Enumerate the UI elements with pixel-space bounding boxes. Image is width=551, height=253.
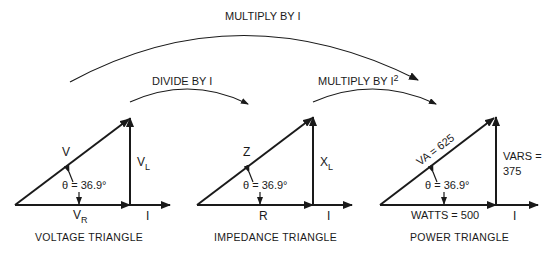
- power-triangle-caption: POWER TRIANGLE: [410, 231, 509, 243]
- divide-by-i-arrow: DIVIDE BY I: [130, 75, 248, 104]
- current-label: I: [146, 209, 149, 223]
- hypotenuse-vector: [197, 118, 312, 205]
- voltage-triangle: V VL θ = 36.9° VR I VOLTAGE TRIANGLE: [15, 118, 170, 243]
- horizontal-label: VR: [73, 208, 88, 225]
- multiply-by-i-squared-label: MULTIPLY BY I2: [318, 73, 399, 87]
- multiply-by-i-arrow: MULTIPLY BY I: [70, 10, 418, 82]
- hypotenuse-label: V: [62, 145, 70, 159]
- vertical-label-line1: VARS =: [503, 150, 542, 162]
- hypotenuse-label: Z: [243, 145, 250, 159]
- multiply-by-i-label: MULTIPLY BY I: [225, 10, 301, 22]
- curved-arrow-icon: [313, 89, 436, 104]
- divide-by-i-label: DIVIDE BY I: [152, 75, 212, 87]
- voltage-triangle-caption: VOLTAGE TRIANGLE: [35, 231, 143, 243]
- current-label: I: [513, 209, 516, 223]
- current-label: I: [327, 209, 330, 223]
- impedance-triangle-caption: IMPEDANCE TRIANGLE: [214, 231, 337, 243]
- multiply-by-i-squared-arrow: MULTIPLY BY I2: [313, 73, 436, 104]
- phasor-triangles-diagram: MULTIPLY BY I DIVIDE BY I MULTIPLY BY I2…: [0, 0, 551, 253]
- hypotenuse-vector: [15, 119, 129, 205]
- impedance-triangle: Z XL θ = 36.9° R I IMPEDANCE TRIANGLE: [197, 117, 352, 243]
- vertical-label: XL: [320, 155, 333, 172]
- horizontal-label: WATTS = 500: [411, 209, 479, 221]
- angle-label: θ = 36.9°: [425, 179, 469, 191]
- vertical-label: VL: [137, 155, 150, 172]
- curved-arrow-icon: [130, 89, 248, 104]
- hypotenuse-vector: [380, 118, 494, 205]
- horizontal-label: R: [259, 209, 268, 223]
- power-triangle: VA = 625 VARS = 375 θ = 36.9° WATTS = 50…: [380, 117, 542, 243]
- vertical-label-line2: 375: [503, 165, 521, 177]
- angle-label: θ = 36.9°: [243, 179, 287, 191]
- angle-label: θ = 36.9°: [62, 179, 106, 191]
